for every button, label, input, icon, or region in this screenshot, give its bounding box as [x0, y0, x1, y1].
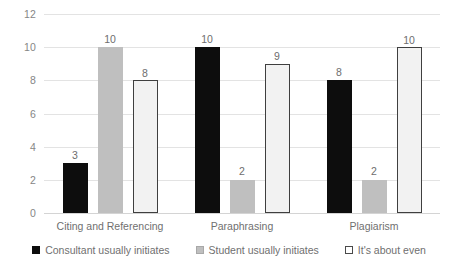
bar-slot: 2 [230, 14, 255, 213]
bar[interactable]: 3 [63, 163, 88, 213]
bar-value-label: 10 [201, 34, 213, 45]
y-axis-tick-label: 10 [0, 41, 36, 53]
legend-swatch-icon [196, 246, 204, 254]
bar-group: 1029 [176, 14, 308, 213]
bar[interactable]: 2 [230, 180, 255, 213]
bar-slot: 9 [265, 14, 290, 213]
bar[interactable]: 8 [327, 80, 352, 213]
bar-slot: 2 [362, 14, 387, 213]
bar-value-label: 10 [104, 34, 116, 45]
y-axis-tick-label: 8 [0, 74, 36, 86]
legend-swatch-icon [32, 246, 40, 254]
y-axis-tick-label: 6 [0, 108, 36, 120]
legend-item[interactable]: Student usually initiates [196, 244, 319, 256]
legend-label: Consultant usually initiates [45, 244, 169, 256]
x-axis-category-label: Plagiarism [308, 216, 440, 236]
bar[interactable]: 10 [98, 47, 123, 213]
y-axis-labels: 121086420 [0, 14, 36, 213]
legend-label: It's about even [358, 244, 426, 256]
bar-value-label: 3 [72, 150, 78, 161]
legend-item[interactable]: Consultant usually initiates [32, 244, 169, 256]
bar-slot: 10 [397, 14, 422, 213]
bar-value-label: 2 [239, 166, 245, 177]
legend-swatch-icon [345, 246, 353, 254]
bar-slot: 10 [98, 14, 123, 213]
bar-chart: 121086420 310810298210 Citing and Refere… [0, 0, 458, 272]
bar-value-label: 8 [142, 68, 148, 79]
bar[interactable]: 2 [362, 180, 387, 213]
bar-value-label: 2 [371, 166, 377, 177]
bar[interactable]: 9 [265, 64, 290, 213]
axis-baseline [44, 213, 440, 214]
bar-value-label: 10 [403, 35, 415, 46]
y-axis-tick-label: 2 [0, 174, 36, 186]
bar-slot: 10 [195, 14, 220, 213]
bar-group: 3108 [44, 14, 176, 213]
bar[interactable]: 8 [133, 80, 158, 213]
bar-groups: 310810298210 [44, 14, 440, 213]
bar-value-label: 8 [336, 67, 342, 78]
bar-group: 8210 [308, 14, 440, 213]
legend-label: Student usually initiates [209, 244, 319, 256]
chart-legend: Consultant usually initiatesStudent usua… [0, 244, 458, 256]
legend-item[interactable]: It's about even [345, 244, 426, 256]
bar-slot: 3 [63, 14, 88, 213]
x-axis-category-label: Paraphrasing [176, 216, 308, 236]
bar-slot: 8 [327, 14, 352, 213]
bar-slot: 8 [133, 14, 158, 213]
y-axis-tick-label: 4 [0, 141, 36, 153]
y-axis-tick-label: 12 [0, 8, 36, 20]
y-axis-tick-label: 0 [0, 207, 36, 219]
bar[interactable]: 10 [195, 47, 220, 213]
bar[interactable]: 10 [397, 47, 422, 213]
x-axis-categories: Citing and ReferencingParaphrasingPlagia… [44, 216, 440, 236]
x-axis-category-label: Citing and Referencing [44, 216, 176, 236]
bar-value-label: 9 [274, 51, 280, 62]
